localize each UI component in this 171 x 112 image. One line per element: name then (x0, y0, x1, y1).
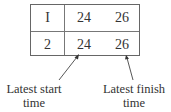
latest-start-label: Latest start time (0, 82, 68, 110)
latest-finish-label: Latest finish time (98, 82, 170, 110)
arrow-icon (125, 55, 133, 80)
arrow-icon (59, 54, 79, 80)
